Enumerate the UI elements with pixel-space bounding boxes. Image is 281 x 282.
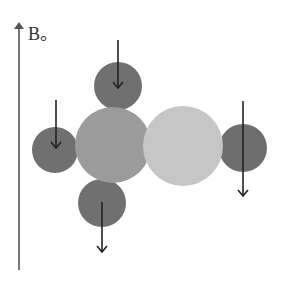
left-small-atom xyxy=(32,127,78,173)
axis-arrowhead-icon xyxy=(14,22,24,29)
diagram-canvas: B。 xyxy=(0,0,281,282)
left-big-atom xyxy=(75,107,151,183)
magnetic-field-label: B。 xyxy=(28,19,58,45)
field-axis xyxy=(14,22,24,270)
right-big-atom xyxy=(143,106,223,186)
